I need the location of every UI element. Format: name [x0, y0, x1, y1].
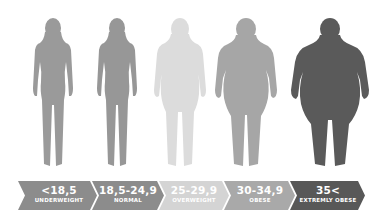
label-normal: 18,5-24,9 NORMAL	[97, 184, 159, 204]
bmi-category: OBESE	[229, 196, 291, 204]
label-extremely-obese: 35< EXTREMLY OBESE	[295, 184, 361, 204]
bmi-category: UNDERWEIGHT	[24, 196, 94, 204]
label-underweight: <18,5 UNDERWEIGHT	[24, 184, 94, 204]
bmi-category: OVERWEIGHT	[164, 196, 224, 204]
label-obese: 30-34,9 OBESE	[229, 184, 291, 204]
bmi-range: 35<	[295, 184, 361, 196]
bmi-range: 30-34,9	[229, 184, 291, 196]
bmi-range: 25-29,9	[164, 184, 224, 196]
bmi-category: NORMAL	[97, 196, 159, 204]
bmi-range: 18,5-24,9	[97, 184, 159, 196]
bmi-range: <18,5	[24, 184, 94, 196]
bmi-category: EXTREMLY OBESE	[295, 196, 361, 204]
label-overweight: 25-29,9 OVERWEIGHT	[164, 184, 224, 204]
